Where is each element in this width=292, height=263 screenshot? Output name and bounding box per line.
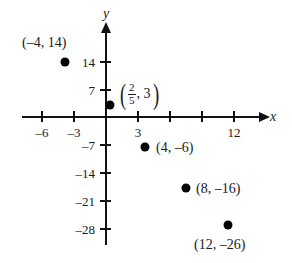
x-tick-neg3 <box>73 111 75 122</box>
y-tick-neg21 <box>100 200 111 202</box>
fraction-open-paren: ( <box>120 82 126 105</box>
x-axis-arrowhead <box>259 112 270 122</box>
y-axis-line <box>105 32 107 245</box>
x-axis-label: x <box>270 110 276 124</box>
data-point-label-1: (–4, 14) <box>22 36 66 50</box>
data-point <box>61 58 70 67</box>
y-tick-label-neg21: –21 <box>58 195 95 208</box>
x-tick-9 <box>201 111 203 122</box>
y-tick-label-7: 7 <box>62 84 95 97</box>
data-point <box>182 184 191 193</box>
x-tick-label-neg6: –6 <box>36 126 49 139</box>
data-point-label-5: (12, –26) <box>194 238 245 252</box>
y-tick-label-neg7: –7 <box>62 139 95 152</box>
data-point-label-4: (8, –16) <box>196 182 240 196</box>
data-point-label-2: ( 2 5 , 3 ) <box>118 82 161 106</box>
x-tick-3 <box>137 111 139 122</box>
y-tick-neg14 <box>100 172 111 174</box>
y-tick-label-neg14: –14 <box>58 167 95 180</box>
y-tick-neg7 <box>100 144 111 146</box>
x-axis-line <box>22 116 262 118</box>
fraction-close-paren: ) <box>152 82 158 105</box>
y-tick-7 <box>100 89 111 91</box>
y-tick-14 <box>100 61 111 63</box>
y-tick-neg28 <box>100 228 111 230</box>
fraction-label-rest: , 3 <box>137 87 151 101</box>
fraction-denominator: 5 <box>128 94 136 107</box>
fraction-numerator: 2 <box>128 82 136 94</box>
data-point <box>106 101 115 110</box>
x-tick-6 <box>169 111 171 122</box>
data-point <box>224 221 233 230</box>
y-axis-label: y <box>103 7 109 21</box>
fraction-two-fifths: 2 5 <box>128 82 136 106</box>
x-tick-neg6 <box>41 111 43 122</box>
x-tick-12 <box>233 111 235 122</box>
y-tick-label-neg28: –28 <box>58 223 95 236</box>
x-tick-label-12: 12 <box>228 126 241 139</box>
data-point-label-3: (4, –6) <box>156 141 193 155</box>
data-point <box>141 143 150 152</box>
x-tick-label-3: 3 <box>135 126 142 139</box>
y-axis-arrowhead <box>101 22 111 33</box>
coordinate-plane-graph: x y –6 –3 3 12 14 7 –7 –14 –21 –28 (–4, … <box>0 0 292 263</box>
x-tick-label-neg3: –3 <box>68 126 81 139</box>
